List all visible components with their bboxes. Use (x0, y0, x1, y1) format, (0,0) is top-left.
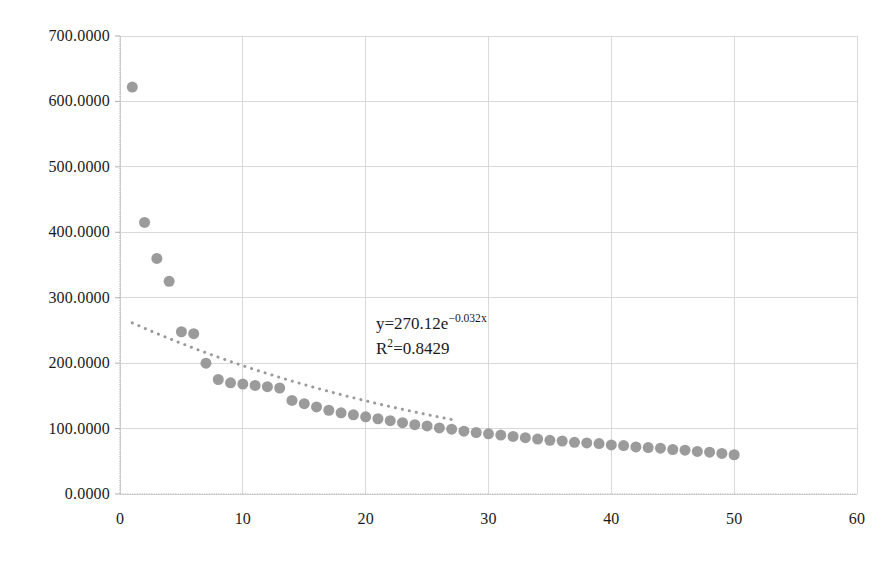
data-point-marker (594, 438, 605, 449)
y-axis-tick-label: 200.0000 (48, 354, 110, 372)
data-point-marker (729, 449, 740, 460)
data-point-marker (323, 405, 334, 416)
x-axis-tick-label: 10 (235, 510, 251, 528)
data-point-marker (508, 431, 519, 442)
data-point-marker (532, 434, 543, 445)
y-axis-tick-label: 100.0000 (48, 420, 110, 438)
data-point-marker (360, 411, 371, 422)
data-point-marker (434, 422, 445, 433)
x-axis-tick-label: 50 (726, 510, 742, 528)
data-point-marker (372, 413, 383, 424)
data-point-marker (680, 445, 691, 456)
equation-exponent: −0.032x (448, 312, 486, 325)
data-point-marker (250, 380, 261, 391)
data-point-marker (348, 409, 359, 420)
data-point-marker (336, 407, 347, 418)
data-point-marker (692, 446, 703, 457)
equation-base: y=270.12e (376, 314, 448, 333)
data-point-marker (422, 420, 433, 431)
axes (115, 36, 857, 494)
x-axis-tick-label: 0 (116, 510, 124, 528)
y-axis-tick-label: 600.0000 (48, 92, 110, 110)
r-squared-value: =0.8429 (393, 339, 449, 358)
data-point-marker (151, 253, 162, 264)
data-point-marker (667, 444, 678, 455)
y-axis-tick-label: 500.0000 (48, 158, 110, 176)
x-axis-tick-label: 30 (480, 510, 496, 528)
data-point-marker (164, 276, 175, 287)
data-point-marker (495, 430, 506, 441)
data-point-marker (299, 398, 310, 409)
data-point-marker (409, 419, 420, 430)
data-point-marker (618, 440, 629, 451)
gridlines (120, 36, 857, 494)
r-squared-symbol: R (376, 339, 387, 358)
data-point-marker (311, 401, 322, 412)
y-axis-tick-label: 700.0000 (48, 27, 110, 45)
data-point-marker (569, 437, 580, 448)
data-point-marker (471, 427, 482, 438)
equation-line: y=270.12e−0.032x (376, 312, 487, 337)
data-point-marker (446, 424, 457, 435)
y-axis-tick-label: 300.0000 (48, 289, 110, 307)
scatter-chart: 0.0000100.0000200.0000300.0000400.000050… (0, 0, 885, 567)
data-point-marker (127, 82, 138, 93)
data-point-marker (286, 395, 297, 406)
y-axis-tick-label: 0.0000 (65, 485, 110, 503)
data-point-marker (643, 442, 654, 453)
data-point-marker (237, 379, 248, 390)
data-point-marker (458, 426, 469, 437)
data-point-marker (188, 328, 199, 339)
x-axis-tick-label: 60 (849, 510, 865, 528)
data-point-marker (655, 443, 666, 454)
data-point-marker (213, 374, 224, 385)
data-point-marker (397, 417, 408, 428)
x-axis-tick-label: 40 (603, 510, 619, 528)
data-point-marker (139, 217, 150, 228)
data-point-marker (176, 326, 187, 337)
data-point-marker (557, 436, 568, 447)
r-squared-line: R2=0.8429 (376, 337, 487, 362)
plot-canvas (0, 0, 885, 567)
data-point-marker (581, 437, 592, 448)
data-point-marker (704, 447, 715, 458)
data-point-marker (385, 415, 396, 426)
data-point-marker (274, 383, 285, 394)
data-point-marker (200, 358, 211, 369)
data-point-marker (225, 377, 236, 388)
data-point-marker (716, 448, 727, 459)
data-point-marker (630, 441, 641, 452)
data-point-marker (483, 428, 494, 439)
x-axis-tick-label: 20 (357, 510, 373, 528)
data-point-marker (606, 439, 617, 450)
data-point-marker (262, 381, 273, 392)
y-axis-tick-label: 400.0000 (48, 223, 110, 241)
data-points (127, 82, 740, 461)
data-point-marker (544, 435, 555, 446)
trendline-equation-annotation: y=270.12e−0.032x R2=0.8429 (376, 312, 487, 361)
data-point-marker (520, 432, 531, 443)
